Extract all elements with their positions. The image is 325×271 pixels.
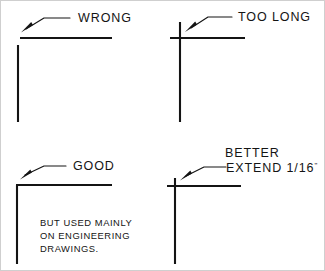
panel-good: GOOD BUT USED MAINLY ON ENGINEERING DRAW… — [16, 159, 132, 264]
label-extend-text: EXTEND 1/16 — [226, 161, 314, 175]
wrong-leader-arrowhead — [21, 22, 33, 32]
label-good: GOOD — [73, 159, 115, 173]
label-extend: EXTEND 1/16" — [226, 161, 318, 175]
label-too-long: TOO LONG — [238, 10, 311, 24]
good-note-line-2: ON ENGINEERING — [40, 230, 130, 241]
better-leader-arrowhead — [180, 171, 192, 181]
panel-wrong: WRONG — [18, 11, 132, 122]
good-note-line-1: BUT USED MAINLY — [40, 217, 132, 228]
good-leader-arrowhead — [20, 170, 32, 180]
too-long-leader-arrowhead — [185, 22, 197, 32]
label-wrong: WRONG — [78, 11, 132, 25]
figure-canvas: WRONG TOO LONG GOOD BUT USED MAINLY ON E… — [0, 0, 325, 271]
wrong-leader-line — [26, 18, 70, 29]
panel-better: BETTER EXTEND 1/16" — [167, 146, 318, 264]
panel-too-long: TOO LONG — [170, 10, 311, 122]
good-note-line-3: DRAWINGS. — [40, 243, 99, 254]
too-long-leader-line — [191, 17, 232, 28]
good-leader-line — [25, 166, 66, 175]
label-better: BETTER — [225, 146, 280, 160]
better-leader-line — [186, 167, 226, 176]
inch-mark-symbol: " — [314, 161, 318, 170]
drafting-figure: WRONG TOO LONG GOOD BUT USED MAINLY ON E… — [0, 0, 325, 271]
